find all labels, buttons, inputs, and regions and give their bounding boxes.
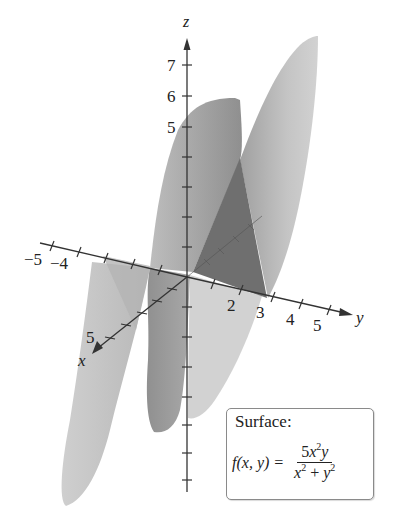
z-axis-label: z <box>182 13 190 30</box>
surface-lower-right-sheet <box>188 275 262 418</box>
z-tick-5: 5 <box>167 118 176 137</box>
y-axis-arrow-icon <box>339 308 353 316</box>
formula-lhs: f(x, y) = <box>232 454 284 472</box>
formula-numerator: 5x2y <box>297 443 332 463</box>
surface-info-box: Surface: f(x, y) = 5x2y x2 + y2 <box>226 408 374 500</box>
y-tick-2: 2 <box>227 296 236 315</box>
y-tick-neg4: −4 <box>50 254 69 273</box>
x-tick-5: 5 <box>86 328 95 347</box>
info-box-title: Surface: <box>235 412 292 432</box>
z-axis-arrow-icon <box>184 38 191 50</box>
formula-fraction: 5x2y x2 + y2 <box>290 443 339 482</box>
surface-lower-middle-lobe <box>147 268 190 432</box>
x-axis-label: x <box>77 351 86 370</box>
z-tick-6: 6 <box>167 87 176 106</box>
z-tick-7: 7 <box>167 56 176 75</box>
surface-formula: f(x, y) = 5x2y x2 + y2 <box>232 443 339 482</box>
y-tick-5: 5 <box>313 316 322 335</box>
y-axis-label: y <box>354 308 364 327</box>
y-tick-4: 4 <box>286 310 295 329</box>
y-tick-3: 3 <box>256 303 265 322</box>
y-tick-neg5: −5 <box>24 250 42 269</box>
formula-denominator: x2 + y2 <box>290 463 339 482</box>
